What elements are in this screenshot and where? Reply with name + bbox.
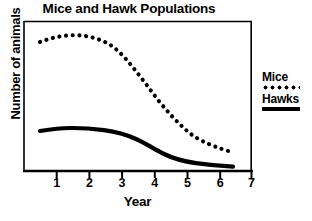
- legend-entry-mice: Mice: [262, 71, 312, 90]
- chart-legend: Mice Hawks: [262, 71, 312, 114]
- legend-swatch-solid-icon: [262, 107, 300, 111]
- x-tick-label-5: 5: [180, 176, 196, 190]
- x-axis-label: Year: [23, 194, 252, 209]
- legend-entry-hawks: Hawks: [262, 93, 312, 111]
- x-tick-label-6: 6: [212, 176, 228, 190]
- x-tick-label-2: 2: [81, 176, 97, 190]
- x-tick-label-1: 1: [49, 176, 65, 190]
- legend-swatch-dotted-icon: [262, 85, 300, 90]
- x-tick-label-3: 3: [114, 176, 130, 190]
- x-tick-label-7: 7: [244, 176, 260, 190]
- series-line-mice: [40, 35, 232, 152]
- x-tick-label-4: 4: [147, 176, 163, 190]
- series-line-hawks: [40, 128, 233, 167]
- legend-label-hawks: Hawks: [262, 93, 312, 106]
- chart-figure: Mice and Hawk Populations Number of anim…: [0, 0, 312, 221]
- legend-label-mice: Mice: [262, 71, 312, 84]
